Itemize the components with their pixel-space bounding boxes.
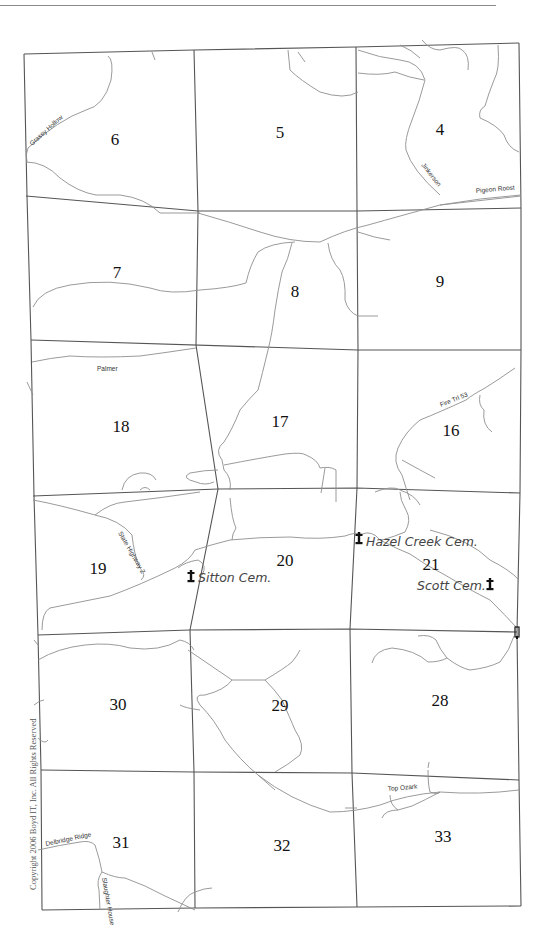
road-sec29-loop-east — [265, 680, 302, 772]
section-number: 5 — [276, 123, 285, 142]
road-sec29-west — [180, 705, 200, 710]
road-sec16-sw — [375, 488, 420, 505]
road-label-jinkerson: Jinkerson — [420, 161, 443, 188]
road-sec30-north — [38, 640, 194, 660]
section-number: 8 — [291, 282, 300, 301]
road-sec4-west — [358, 72, 424, 80]
section-number: 18 — [113, 417, 130, 436]
road-sec5-creek — [288, 50, 358, 96]
road-sec4-nw — [400, 45, 420, 58]
section-number: 19 — [90, 559, 107, 578]
road-sec28-spur — [418, 636, 447, 659]
road-sec20-north — [230, 498, 236, 540]
section-number: 28 — [432, 691, 449, 710]
section-number: 33 — [435, 827, 452, 846]
road-sec33-loop-north — [428, 770, 440, 794]
road-label-delbridge-ridge: Delbridge Ridge — [45, 830, 93, 848]
road-sec9-stub — [358, 232, 390, 240]
road-sec4-east — [480, 45, 519, 152]
section-number: 21 — [423, 555, 440, 574]
road-sec33-loop — [390, 792, 440, 810]
road-label-top-ozark: Top Ozark — [387, 782, 418, 793]
section-number: 31 — [113, 833, 130, 852]
road-sec7-creek — [33, 242, 295, 307]
section-number: 17 — [272, 412, 290, 431]
grid-line-h3 — [33, 488, 520, 496]
road-sec8-east — [328, 243, 378, 316]
road-pigeon-roost-main — [198, 195, 521, 242]
cemetery-label: Scott Cem. — [417, 578, 486, 593]
road-sec6-stub — [152, 52, 155, 60]
grid-line-h5 — [41, 770, 519, 780]
road-sec16-spur — [402, 460, 435, 478]
road-sec16-north-spur — [480, 395, 493, 432]
road-top-ozark — [258, 775, 519, 812]
grid-line-east — [517, 43, 521, 906]
section-number: 6 — [111, 130, 120, 149]
road-sec19-north — [95, 492, 200, 515]
section-number: 9 — [436, 272, 445, 291]
grid-line-v1 — [190, 50, 218, 908]
road-sec17-stub — [321, 468, 325, 493]
road-sec29-north — [188, 650, 300, 680]
road-sec5-stub — [298, 52, 305, 62]
road-label-pigeon-roost: Pigeon Roost — [475, 184, 515, 195]
road-sec17-sw — [186, 470, 218, 484]
section-number: 20 — [277, 551, 294, 570]
road-sec29-loop-west — [197, 680, 275, 790]
section-number: 4 — [436, 120, 445, 139]
road-pigeon-roost-east — [440, 196, 521, 205]
section-number: 29 — [272, 696, 289, 715]
road-label-state-highway-z: State Highway Z — [116, 530, 147, 575]
road-sec30-stub — [34, 640, 38, 645]
cemeteries: Sitton Cem. Hazel Creek Cem. Scott Cem. — [188, 532, 494, 593]
road-label-palmer: Palmer — [97, 365, 118, 372]
grid-line-v2 — [350, 47, 358, 907]
road-label-slaughter-house: Slaughter House — [100, 877, 116, 926]
grid-line-h4 — [38, 629, 517, 635]
roads — [26, 40, 521, 912]
cemetery-label: Hazel Creek Cem. — [366, 534, 478, 549]
grid-line-h2 — [31, 340, 521, 350]
road-sec28-stub — [428, 762, 429, 768]
township-map: 6 5 4 7 8 9 18 17 16 19 20 21 30 29 28 3… — [0, 0, 542, 942]
road-sec18-se2 — [140, 488, 150, 491]
section-number: 30 — [110, 695, 127, 714]
road-grassy-hollow — [26, 56, 112, 162]
cemetery-sitton[interactable]: Sitton Cem. — [188, 570, 272, 585]
road-sec30-west-stub2 — [38, 738, 48, 742]
cemetery-icon — [188, 570, 195, 582]
cemetery-label: Sitton Cem. — [198, 570, 271, 585]
road-label-grassy-hollow: Grassy Hollow — [28, 113, 65, 147]
road-sec33-spur — [382, 810, 398, 818]
boundary-marker-dot — [516, 636, 518, 639]
section-grid — [24, 43, 521, 910]
road-sec6-south — [26, 162, 200, 213]
road-sec17-west — [218, 410, 240, 490]
section-number: 16 — [443, 421, 460, 440]
cemetery-icon — [487, 578, 494, 590]
cemetery-hazel-creek[interactable]: Hazel Creek Cem. — [356, 532, 478, 549]
section-number: 32 — [274, 836, 291, 855]
road-sec8-south — [240, 243, 292, 410]
copyright-text: Copyright 2006 Boyd IT, Inc. All Rights … — [28, 718, 38, 890]
section-number: 7 — [113, 263, 122, 282]
road-sec21-north — [382, 492, 409, 540]
road-sec18-se — [122, 473, 156, 490]
road-sec17-loop — [224, 453, 336, 502]
road-palmer — [32, 348, 196, 362]
cemetery-scott[interactable]: Scott Cem. — [417, 578, 494, 593]
